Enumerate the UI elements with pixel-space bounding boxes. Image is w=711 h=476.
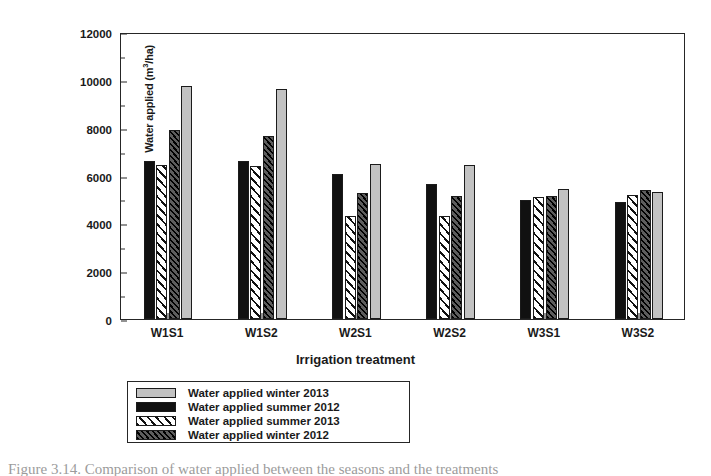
bar <box>276 89 287 319</box>
bar-group-w1s1 <box>144 34 193 319</box>
y-tick-mark <box>121 225 127 226</box>
y-tick-mark-minor <box>121 153 125 154</box>
figure-caption: Figure 3.14. Comparison of water applied… <box>8 461 708 476</box>
bar <box>345 216 356 319</box>
bar <box>464 165 475 319</box>
bar <box>451 196 462 319</box>
y-tick-mark-minor <box>121 57 125 58</box>
bar <box>181 86 192 319</box>
x-tick-label-w1s1: W1S1 <box>151 326 184 340</box>
figure-bar-chart: Water applied (m3/ha) 020004000600080001… <box>0 0 711 476</box>
legend-label: Water applied winter 2012 <box>188 429 329 441</box>
bar-group-w2s2 <box>426 34 475 319</box>
legend-label: Water applied summer 2012 <box>188 401 340 413</box>
bar <box>615 202 626 319</box>
y-tick-mark <box>121 34 127 35</box>
bar <box>357 193 368 319</box>
y-tick-label: 6000 <box>46 172 121 184</box>
x-tick-label-w2s2: W2S2 <box>433 326 466 340</box>
x-tick-mark <box>544 313 545 319</box>
y-tick-mark <box>121 129 127 130</box>
bar <box>652 192 663 319</box>
plot-area: Water applied (m3/ha) 020004000600080001… <box>120 33 685 320</box>
y-tick-mark-minor <box>121 201 125 202</box>
y-tick-label: 8000 <box>46 124 121 136</box>
bar <box>640 190 651 319</box>
x-tick-mark <box>356 313 357 319</box>
bar <box>426 184 437 319</box>
x-tick-mark <box>262 313 263 319</box>
x-tick-mark <box>638 313 639 319</box>
y-tick-mark-minor <box>121 249 125 250</box>
legend-swatch <box>136 388 176 398</box>
x-tick-label-w3s1: W3S1 <box>527 326 560 340</box>
x-tick-mark <box>168 313 169 319</box>
legend-swatch <box>136 416 176 426</box>
legend-swatch <box>136 402 176 412</box>
x-tick-mark <box>450 313 451 319</box>
legend-swatch <box>136 430 176 440</box>
y-tick-label: 10000 <box>46 76 121 88</box>
y-tick-label: 2000 <box>46 267 121 279</box>
y-tick-mark <box>121 273 127 274</box>
x-axis-label: Irrigation treatment <box>0 352 711 367</box>
bar <box>332 174 343 319</box>
y-tick-mark <box>121 321 127 322</box>
y-tick-label: 0 <box>46 315 121 327</box>
bar <box>520 200 531 319</box>
y-tick-label: 4000 <box>46 219 121 231</box>
bar <box>169 130 180 319</box>
bar-group-w2s1 <box>332 34 381 319</box>
bar-group-w1s2 <box>238 34 287 319</box>
bar <box>263 136 274 319</box>
y-tick-label: 12000 <box>46 28 121 40</box>
bar <box>558 189 569 319</box>
bar-group-w3s2 <box>615 34 664 319</box>
y-tick-mark-minor <box>121 105 125 106</box>
bar <box>439 216 450 319</box>
bar-group-w3s1 <box>520 34 569 319</box>
legend-item: Water applied summer 2012 <box>136 400 409 414</box>
legend-item: Water applied summer 2013 <box>136 414 409 428</box>
legend-item: Water applied winter 2013 <box>136 386 409 400</box>
bar <box>250 166 261 319</box>
x-tick-label-w1s2: W1S2 <box>245 326 278 340</box>
chart-legend: Water applied winter 2013Water applied s… <box>127 381 410 443</box>
legend-item: Water applied winter 2012 <box>136 428 409 442</box>
legend-label: Water applied summer 2013 <box>188 415 340 427</box>
y-tick-mark-minor <box>121 297 125 298</box>
bar <box>156 165 167 319</box>
y-tick-mark <box>121 81 127 82</box>
legend-label: Water applied winter 2013 <box>188 387 329 399</box>
bar <box>144 161 155 319</box>
bar <box>627 195 638 319</box>
y-tick-mark <box>121 177 127 178</box>
x-tick-label-w2s1: W2S1 <box>339 326 372 340</box>
bar <box>238 161 249 319</box>
x-tick-label-w3s2: W3S2 <box>622 326 655 340</box>
bar <box>370 164 381 319</box>
bar <box>533 197 544 319</box>
bar <box>546 196 557 319</box>
